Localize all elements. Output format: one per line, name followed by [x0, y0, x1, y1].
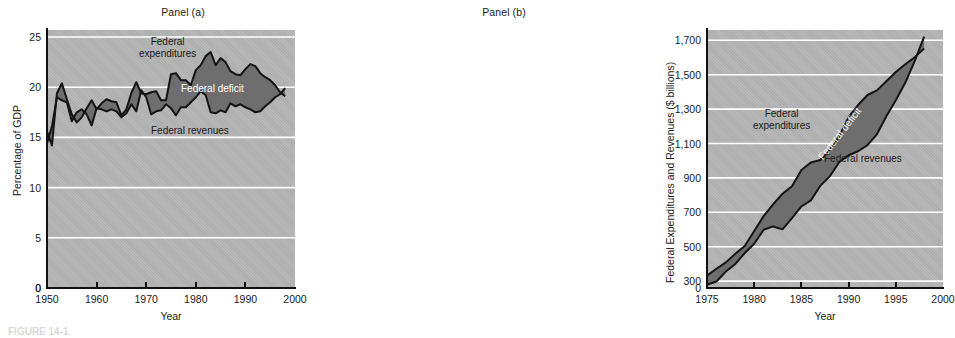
panel-a-title: Panel (a): [0, 6, 348, 18]
x-tick-label: 1950: [35, 293, 58, 305]
y-tick-label: 5: [35, 232, 41, 244]
panel-b-plot-area: 3005007009001,1001,3001,5001,7000 197519…: [707, 30, 943, 288]
panel-b-title: Panel (b): [325, 6, 669, 18]
panel-a: Panel (a) Percentage of GDP 05101520250 …: [0, 0, 330, 338]
x-tick-label: 1990: [234, 293, 257, 305]
x-tick-label: 1980: [743, 293, 766, 305]
x-tick-label: 1995: [884, 293, 907, 305]
x-tick-mark: [800, 282, 802, 288]
panel-a-chart-svg: [47, 30, 295, 288]
y-tick-label: 900: [683, 172, 701, 184]
x-tick-mark: [848, 282, 850, 288]
x-tick-label: 1970: [135, 293, 158, 305]
panel-b-x-axis-title: Year: [707, 310, 943, 322]
y-tick-label: 500: [683, 241, 701, 253]
y-tick-label: 25: [29, 31, 41, 43]
x-tick-label: 1985: [790, 293, 813, 305]
y-tick-label: 1,300: [675, 103, 701, 115]
panel-b: Panel (b) Federal Expenditures and Reven…: [325, 0, 655, 338]
x-tick-mark: [244, 282, 246, 288]
x-tick-label: 2000: [283, 293, 306, 305]
x-tick-label: 1975: [695, 293, 718, 305]
figure-caption: FIGURE 14-1: [8, 326, 69, 337]
x-tick-mark: [145, 282, 147, 288]
panel-a-y-axis-title: Percentage of GDP: [11, 105, 23, 196]
panel-b-y-axis-line: [706, 28, 708, 288]
panel-b-chart-svg: [707, 30, 943, 288]
panel-a-x-axis-line: [46, 287, 296, 289]
y-tick-label: 1,100: [675, 138, 701, 150]
x-tick-mark: [195, 282, 197, 288]
panel-b-x-axis-line: [706, 287, 944, 289]
panel-a-plot-area: 05101520250 195019601970198019902000 Fed…: [47, 30, 295, 288]
y-tick-label: 10: [29, 182, 41, 194]
y-tick-label: 700: [683, 206, 701, 218]
y-tick-label: 1,500: [675, 69, 701, 81]
panel-a-y-axis-line: [46, 28, 48, 288]
y-tick-label: 15: [29, 131, 41, 143]
y-tick-label: 20: [29, 81, 41, 93]
x-tick-label: 1980: [184, 293, 207, 305]
x-tick-mark: [753, 282, 755, 288]
panel-b-y-axis-title: Federal Expenditures and Revenues ($ bil…: [664, 62, 676, 283]
x-tick-label: 1960: [85, 293, 108, 305]
x-tick-mark: [895, 282, 897, 288]
y-tick-label: 1,700: [675, 34, 701, 46]
x-tick-mark: [96, 282, 98, 288]
x-tick-label: 1990: [837, 293, 860, 305]
panel-a-x-axis-title: Year: [47, 310, 295, 322]
x-tick-label: 2000: [931, 293, 954, 305]
